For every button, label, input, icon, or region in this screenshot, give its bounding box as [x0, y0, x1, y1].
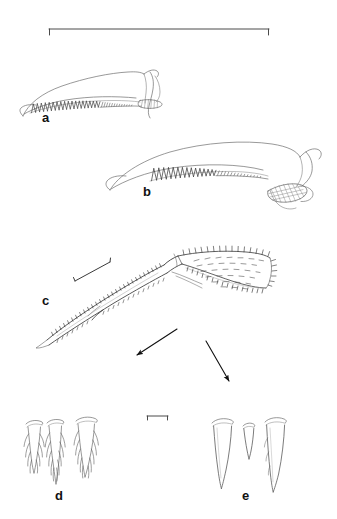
figure-label-c: c [42, 294, 49, 307]
panel-e-drawing [212, 418, 286, 492]
figure-label-d: d [55, 489, 63, 502]
figure-label-e: e [242, 489, 249, 502]
arrow-to-e [206, 341, 229, 381]
seta-e-1 [212, 419, 233, 489]
seta-e-2 [243, 423, 255, 459]
panel-d-drawing [24, 417, 98, 484]
figure-plate: a b c d e [0, 0, 337, 519]
seta-d-2 [45, 419, 65, 484]
panel-c-drawing [36, 246, 277, 348]
figure-label-a: a [42, 111, 49, 124]
seta-e-3 [264, 418, 286, 492]
panel-b-drawing [106, 142, 321, 209]
scale-bar-c [74, 258, 111, 281]
plate-drawing [0, 0, 337, 519]
seta-d-3 [74, 417, 98, 478]
figure-label-b: b [143, 185, 151, 198]
scale-bar-top [49, 29, 269, 35]
arrow-to-d [137, 329, 177, 355]
seta-d-1 [24, 420, 44, 473]
scale-bar-de [147, 416, 168, 420]
